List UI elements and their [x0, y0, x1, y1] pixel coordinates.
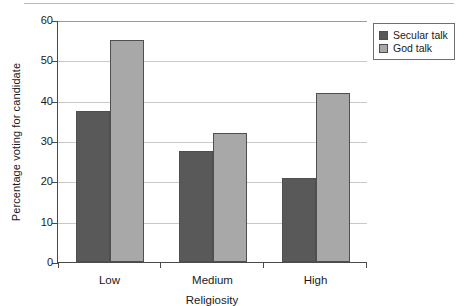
bar: [179, 151, 213, 262]
x-tick: [58, 262, 59, 268]
y-axis-title: Percentage voting for candidate: [10, 62, 22, 220]
bar: [110, 40, 144, 262]
y-tick-label: 0: [13, 257, 53, 268]
legend-item: Secular talk: [379, 29, 448, 41]
top-divider: [24, 3, 454, 4]
x-tick: [366, 262, 367, 268]
x-tick: [263, 262, 264, 268]
bar: [282, 178, 316, 262]
gridline: [58, 21, 367, 22]
bar: [213, 133, 247, 262]
bar: [316, 93, 350, 262]
legend-item: God talk: [379, 42, 448, 54]
plot-area: 0102030405060 Percentage voting for cand…: [57, 21, 366, 263]
legend-swatch-icon: [379, 44, 388, 53]
gridline: [58, 61, 367, 62]
bar: [76, 111, 110, 262]
x-tick-label: High: [266, 274, 366, 286]
legend-label: Secular talk: [393, 30, 448, 41]
legend-label: God talk: [393, 43, 432, 54]
x-tick-label: Medium: [163, 274, 263, 286]
y-tick-label: 60: [13, 15, 53, 26]
x-tick: [160, 262, 161, 268]
x-tick-label: Low: [60, 274, 160, 286]
legend-swatch-icon: [379, 31, 388, 40]
x-axis-title: Religiosity: [186, 294, 238, 306]
legend: Secular talkGod talk: [373, 23, 455, 60]
